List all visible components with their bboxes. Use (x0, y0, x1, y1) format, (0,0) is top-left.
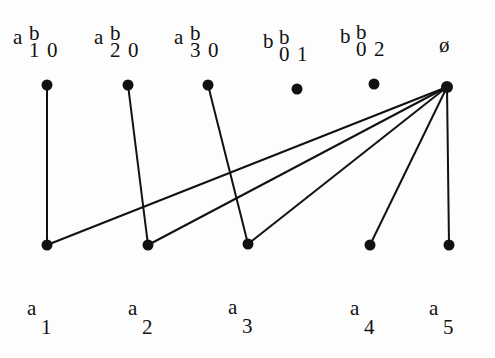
label-a1b0-sub-2: 0 (47, 40, 58, 61)
node-a3 (243, 239, 254, 250)
label-b0b2-sub-1: 0 (356, 39, 367, 60)
label-a3-main: a (228, 297, 237, 318)
edge-empty-a2 (148, 87, 447, 245)
label-a3b0-sub-1: 3 (190, 40, 201, 61)
label-a2b0-sub-1: 2 (110, 40, 121, 61)
label-b0b2-main-1: b (340, 26, 351, 47)
edge-empty-a4 (370, 87, 447, 245)
label-b0b2-sub-2: 2 (374, 39, 385, 60)
label-a2b0-main-1: a (94, 27, 103, 48)
node-a3b0 (203, 80, 214, 91)
node-a2 (143, 240, 154, 251)
label-a1-sub: 1 (41, 317, 52, 338)
graph-svg (0, 0, 495, 358)
edge-empty-a5 (447, 87, 449, 245)
node-a1 (42, 240, 53, 251)
edge-empty-a1 (47, 87, 447, 245)
label-a2-sub: 2 (142, 317, 153, 338)
label-a2b0-sub-2: 0 (128, 40, 139, 61)
label-empty: ø (439, 35, 450, 56)
node-empty (441, 81, 453, 93)
label-b0b1-main-1: b (263, 31, 274, 52)
label-a1b0-sub-1: 1 (29, 40, 40, 61)
label-b0b1-sub-1: 0 (279, 44, 290, 65)
label-a4-main: a (350, 298, 359, 319)
node-a1b0 (42, 80, 53, 91)
node-a2b0 (123, 80, 134, 91)
node-a4 (365, 240, 376, 251)
label-a5-sub: 5 (443, 317, 454, 338)
label-a5-main: a (429, 298, 438, 319)
label-a2-main: a (128, 298, 137, 319)
label-a3-sub: 3 (242, 316, 253, 337)
label-b0b1-sub-2: 1 (297, 44, 308, 65)
edge-a2b0-a2 (128, 85, 148, 245)
label-a3b0-main-1: a (174, 27, 183, 48)
label-a1b0-main-1: a (13, 27, 22, 48)
label-a4-sub: 4 (364, 317, 375, 338)
label-a3b0-sub-2: 0 (208, 40, 219, 61)
diagram-canvas: ab10ab20ab30bb01bb02øa1a2a3a4a5 (0, 0, 495, 358)
edge-a3b0-a3 (208, 85, 248, 244)
node-a5 (444, 240, 455, 251)
edge-empty-a3 (248, 87, 447, 244)
node-b0b1 (292, 84, 303, 95)
label-a1-main: a (27, 298, 36, 319)
node-b0b2 (369, 79, 380, 90)
